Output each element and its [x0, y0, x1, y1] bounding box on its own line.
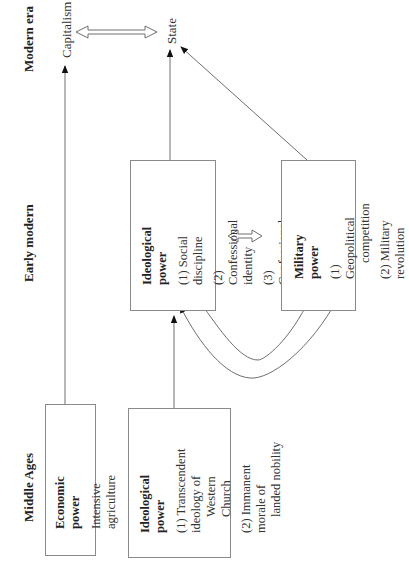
ideological-power-box-early-modern: Ideological power (1) Social discipline …	[130, 160, 216, 311]
box-item: (2) Military revolution	[378, 203, 408, 279]
double-arrow-capitalism-state	[76, 26, 157, 38]
box-item: Intensive agriculture	[89, 475, 119, 529]
military-power-box: Military power (1) Geopolitical competit…	[281, 160, 356, 311]
era-label-modern: Modern era	[21, 6, 37, 72]
era-label-early-modern: Early modern	[21, 204, 37, 282]
box-title: Ideological power	[138, 441, 168, 533]
era-label-middle-ages: Middle Ages	[21, 453, 37, 522]
box-item: (1) Transcendent ideology of Western Chu…	[174, 441, 234, 533]
box-item: (2) Immanent morale of landed nobility	[239, 441, 284, 533]
outcome-label-capitalism: Capitalism	[59, 2, 75, 58]
box-item: (1) Geopolitical competition	[328, 203, 373, 279]
outcome-label-state: State	[164, 18, 180, 44]
ideological-power-box-middle-ages: Ideological power (1) Transcendent ideol…	[128, 408, 231, 558]
box-title: Economic power	[53, 475, 83, 529]
box-title: Ideological power	[140, 210, 170, 285]
box-item: (2) Confessional identity	[211, 210, 256, 285]
economic-power-box: Economic power Intensive agriculture	[45, 404, 96, 556]
box-title: Military power	[292, 203, 322, 279]
box-item: (1) Social discipline	[176, 210, 206, 285]
arrow-military-to-state	[181, 47, 307, 160]
